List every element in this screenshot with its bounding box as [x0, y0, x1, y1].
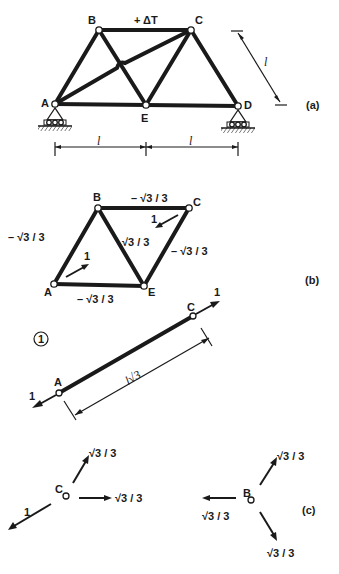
- node-c: [63, 493, 69, 499]
- member-ae: [54, 284, 144, 286]
- label-c: C: [195, 14, 203, 26]
- arrow-down-left: [14, 504, 51, 526]
- dim-diag-label: l: [264, 55, 268, 69]
- figure-b-label: (b): [305, 274, 319, 286]
- truss-diagram: A B C D E + ΔT (a) l l l: [0, 0, 339, 574]
- figure-c-label: (c): [302, 504, 316, 516]
- node-d: [235, 103, 241, 109]
- dimension-diagonal: l: [231, 31, 287, 105]
- node-c: [188, 27, 194, 33]
- force-ab: – √3 / 3: [8, 231, 45, 243]
- temperature-load-label: + ΔT: [134, 14, 158, 26]
- force-up-right: √3 / 3: [277, 450, 304, 462]
- dimension-horizontal: l l: [55, 134, 238, 156]
- unit-load-arrow-a: [66, 267, 84, 277]
- force-down-left: 1: [24, 506, 30, 518]
- node-e: [143, 102, 149, 108]
- arrow-down-right: [260, 512, 274, 535]
- label-a: A: [44, 286, 52, 298]
- unit-load-arrow-c: [160, 215, 178, 225]
- unit-load-c-label: 1: [151, 213, 157, 225]
- force-be: √3 / 3: [122, 236, 149, 248]
- member-be: [99, 30, 146, 105]
- arrow-up-right: [260, 463, 274, 485]
- force-up-right: √3 / 3: [89, 447, 116, 459]
- force-right: √3 / 3: [115, 492, 142, 504]
- support-a: [38, 108, 72, 131]
- force-a-label: 1: [29, 390, 35, 402]
- node-e: [141, 283, 147, 289]
- dim-left-label: l: [97, 134, 101, 148]
- unit-load-a-label: 1: [84, 250, 90, 262]
- label-e: E: [141, 112, 148, 124]
- support-d: [221, 110, 255, 133]
- member-cd: [191, 30, 238, 106]
- figure-a-label: (a): [306, 99, 320, 111]
- figure-1-member: 1 A C 1 1 l√3: [29, 286, 220, 420]
- force-bc: – √3 / 3: [131, 192, 168, 204]
- label-b: B: [93, 191, 101, 203]
- figure-b-truss: A B C E – √3 / 3 – √3 / 3 √3 / 3 – √3 / …: [8, 191, 319, 305]
- node-b: [95, 205, 101, 211]
- arrow-up-right: [73, 461, 86, 483]
- label-d: D: [244, 99, 252, 111]
- force-ce: – √3 / 3: [171, 245, 208, 257]
- figure-a-truss: A B C D E + ΔT (a) l l l: [38, 14, 320, 156]
- figure-c-node-c: C √3 / 3 √3 / 3 1: [8, 447, 142, 530]
- member-ab: [54, 208, 98, 284]
- force-arrow-c: [196, 304, 214, 314]
- circled-marker-label: 1: [38, 333, 44, 345]
- label-b: B: [88, 14, 96, 26]
- node-a: [52, 101, 58, 107]
- label-b: B: [243, 487, 251, 499]
- node-c: [186, 205, 192, 211]
- label-c: C: [55, 483, 63, 495]
- dim-right-label: l: [189, 134, 193, 148]
- node-c: [190, 313, 196, 319]
- dimension-length: l√3: [64, 328, 212, 420]
- force-ae: – √3 / 3: [77, 293, 114, 305]
- label-c: C: [187, 301, 195, 313]
- label-c: C: [193, 196, 201, 208]
- label-e: E: [148, 286, 155, 298]
- node-a: [56, 390, 62, 396]
- length-label: l√3: [122, 367, 143, 387]
- force-down-right: √3 / 3: [267, 547, 294, 559]
- label-a: A: [41, 97, 49, 109]
- node-b: [96, 27, 102, 33]
- force-c-label: 1: [214, 286, 220, 298]
- label-a: A: [54, 376, 62, 388]
- force-left: √3 / 3: [202, 510, 229, 522]
- figure-c-node-b: B √3 / 3 √3 / 3 √3 / 3 (c): [202, 450, 316, 559]
